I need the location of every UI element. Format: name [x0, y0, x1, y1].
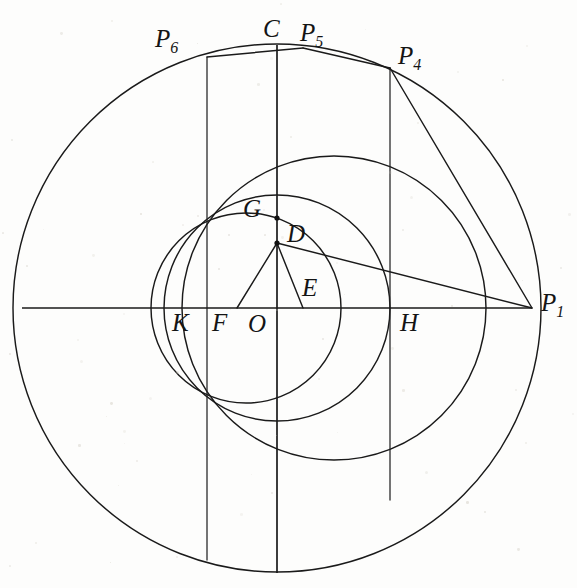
paper-speck: [525, 442, 527, 444]
dot-d: [274, 240, 279, 245]
paper-speck: [78, 444, 81, 447]
paper-speck: [152, 161, 154, 163]
paper-speck: [26, 265, 28, 267]
paper-speck: [572, 413, 574, 415]
paper-speck: [110, 402, 113, 405]
paper-speck: [391, 347, 394, 350]
paper-speck: [389, 171, 392, 174]
segment-d-e: [277, 243, 303, 308]
paper-speck: [270, 57, 273, 60]
paper-speck: [276, 309, 278, 311]
paper-speck: [9, 565, 11, 567]
paper-speck: [123, 430, 126, 433]
paper-speck: [176, 371, 179, 374]
label-e: E: [302, 275, 317, 300]
paper-speck: [2, 232, 4, 234]
label-p1-subscript: 1: [556, 303, 564, 320]
construction-drawing: [0, 0, 577, 588]
vertical-line-group: [207, 45, 390, 573]
label-p6: P6: [155, 26, 178, 56]
paper-speck: [466, 501, 469, 504]
label-p1: P1: [541, 290, 564, 320]
paper-speck: [568, 213, 571, 216]
paper-speck: [140, 213, 142, 215]
label-p5: P5: [300, 20, 323, 50]
paper-speck: [502, 79, 504, 81]
label-p5-subscript: 5: [315, 33, 323, 50]
paper-speck: [318, 378, 320, 380]
paper-speck: [410, 196, 413, 199]
paper-speck: [336, 262, 338, 264]
paper-speck: [322, 338, 324, 340]
paper-speck: [402, 389, 405, 392]
paper-speck: [264, 234, 266, 236]
paper-speck: [451, 305, 453, 307]
label-g: G: [243, 196, 261, 221]
label-p4: P4: [398, 43, 421, 73]
paper-speck: [149, 397, 152, 400]
paper-speck: [11, 139, 13, 141]
paper-speck: [281, 236, 284, 239]
paper-speck: [228, 234, 230, 236]
paper-speck: [417, 122, 419, 124]
paper-speck: [515, 389, 517, 391]
paper-speck: [280, 3, 282, 5]
paper-speck: [402, 229, 404, 231]
paper-speck: [517, 548, 520, 551]
paper-speck: [60, 32, 63, 35]
paper-speck: [92, 254, 95, 257]
segment-d-f: [237, 243, 277, 308]
paper-speck: [111, 20, 113, 22]
label-k: K: [172, 310, 189, 335]
label-f: F: [212, 310, 227, 335]
label-c: C: [263, 16, 280, 41]
chord-p5-p4: [303, 48, 390, 68]
paper-speck: [182, 224, 184, 226]
paper-speck: [9, 353, 11, 355]
chord-p4-p1: [390, 68, 532, 308]
figure-root: P6CP5P4GDEKFOHP1: [0, 0, 577, 588]
paper-speck: [80, 360, 83, 363]
paper-speck: [257, 83, 260, 86]
label-o: O: [248, 311, 266, 336]
label-h: H: [400, 310, 418, 335]
paper-speck: [240, 513, 243, 516]
label-p6-subscript: 6: [170, 39, 178, 56]
paper-speck: [560, 267, 562, 269]
dot-g: [274, 215, 279, 220]
label-d: D: [287, 221, 305, 246]
paper-speck: [123, 313, 125, 315]
paper-speck: [110, 562, 111, 563]
label-p4-subscript: 4: [413, 56, 421, 73]
